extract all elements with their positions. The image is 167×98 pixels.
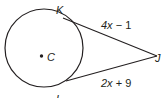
label-k: K: [56, 4, 64, 16]
circle-c: [5, 9, 83, 87]
label-lj-length: 2x + 9: [100, 77, 131, 89]
label-kj-length: 4x − 1: [101, 19, 131, 31]
label-kj-rest: − 1: [113, 19, 132, 31]
label-lj-var: 2x: [100, 77, 113, 89]
label-lj-rest: + 9: [113, 77, 132, 89]
label-l: L: [56, 93, 62, 98]
label-j: J: [154, 52, 161, 64]
center-point: [40, 54, 43, 57]
label-c: C: [47, 51, 55, 63]
tangent-diagram: K C J 4x − 1 2x + 9 L: [0, 0, 167, 98]
label-kj-var: 4x: [101, 19, 113, 31]
